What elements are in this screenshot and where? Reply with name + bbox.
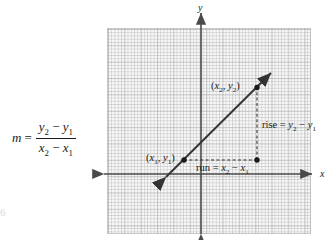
run-annotation: run = x2 − x1 [196,163,249,176]
formula-lhs: m [12,130,21,146]
figure-canvas: y x (x2, y2) (x1, y1) rise = y2 − y1 run… [0,0,333,240]
formula-equals: = [24,130,31,146]
point-x2-y2-label: (x2, y2) [211,81,240,94]
run-b-sub: 1 [245,168,249,176]
slope-formula: m = y2 − y1 x2 − x1 [12,118,76,158]
num-b-sub: 1 [69,127,73,137]
den-minus: − [49,140,63,155]
rise-annotation: rise = y2 − y1 [262,120,316,133]
paren-close: ) [171,152,175,163]
formula-denominator: x2 − x1 [36,139,76,159]
paren-close: ) [236,80,240,91]
den-b-sub: 1 [69,147,73,157]
formula-fraction: y2 − y1 x2 − x1 [36,118,76,158]
right-angle-corner-dot [254,157,259,162]
rise-b-sub: 1 [312,125,316,133]
num-minus: − [49,119,63,134]
x-axis-label: x [320,169,324,179]
point-x1-y1-label: (x1, y1) [146,153,175,166]
run-word: run [196,162,210,173]
run-equals: = [210,162,221,173]
page-number-artifact: 6 [0,206,6,218]
point-x2-y2-dot [254,85,259,90]
rise-minus: − [297,119,308,130]
rise-equals: = [277,119,288,130]
y-axis-label: y [198,3,202,13]
point-x1-y1-dot [181,157,186,162]
run-minus: − [229,162,240,173]
rise-word: rise [262,119,277,130]
formula-numerator: y2 − y1 [36,118,76,139]
